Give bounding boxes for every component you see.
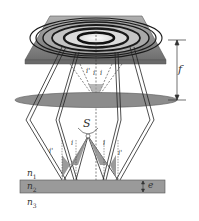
source-point: [86, 134, 90, 138]
angle-label-right: i': [118, 150, 122, 157]
medium-1-label: n1: [27, 169, 37, 180]
source-label: S: [83, 118, 91, 129]
angle-label-top-left: i': [86, 68, 90, 75]
screen: [25, 16, 166, 64]
focal-length-bracket: [168, 40, 186, 100]
lens: [15, 93, 177, 108]
medium-3-label: n3: [27, 198, 37, 209]
angle-label-top-inner-right: i: [100, 70, 102, 77]
focal-length-label: f: [178, 64, 182, 75]
medium-2-label: n2: [27, 182, 37, 193]
angle-label-right-inner: i: [103, 140, 105, 147]
angle-label-left-inner: i: [71, 140, 73, 147]
diagram-canvas: f S i' i i i' i' i i n1 n2 n3 e: [0, 0, 199, 221]
angle-label-left: i': [49, 148, 53, 155]
angle-label-top-inner-left: i: [93, 70, 95, 77]
thickness-label: e: [148, 181, 153, 190]
